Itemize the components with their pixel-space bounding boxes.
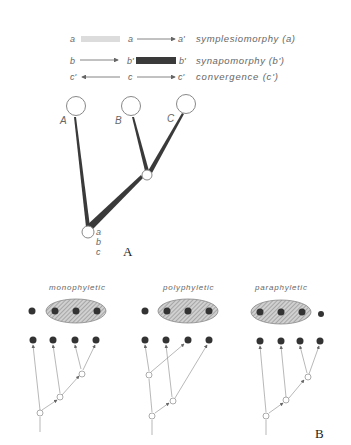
ancestor-node bbox=[79, 371, 85, 377]
tip-dot bbox=[163, 337, 170, 344]
legend-row3-right: c' bbox=[178, 72, 185, 82]
taxon-A-label: A bbox=[59, 115, 67, 126]
group-title-polyphyletic: polyphyletic bbox=[162, 283, 214, 292]
tip-dot bbox=[257, 338, 264, 345]
taxon-dot bbox=[299, 309, 306, 316]
ancestor-node bbox=[170, 398, 176, 404]
ancestor-node bbox=[146, 372, 152, 378]
legend-row3-left: c' bbox=[70, 72, 77, 82]
taxon-dot bbox=[206, 308, 213, 315]
branch-node-to-B bbox=[132, 117, 149, 171]
tip-dot bbox=[30, 337, 37, 344]
taxon-dot bbox=[29, 308, 36, 315]
branch-root-to-A bbox=[74, 117, 90, 227]
tip-dot bbox=[185, 337, 192, 344]
ancestor-node bbox=[37, 410, 43, 416]
panel-b: monophyletic pol bbox=[29, 283, 325, 441]
legend-row1-right: a' bbox=[178, 34, 185, 44]
legend-row2-right: b' bbox=[179, 56, 186, 66]
term-symplesiomorphy: symplesiomorphy (a) bbox=[196, 33, 296, 44]
panel-label-A: A bbox=[123, 244, 133, 259]
legend-row1-left: a bbox=[70, 34, 75, 44]
group-paraphyletic: paraphyletic bbox=[251, 283, 324, 435]
cladistics-diagram: a a a' symplesiomorphy (a) b b' b' synap… bbox=[0, 0, 351, 445]
root-char-c: c bbox=[96, 247, 101, 257]
term-synapomorphy: synapomorphy (b') bbox=[196, 55, 285, 66]
ancestor-node bbox=[305, 374, 311, 380]
branch-root-to-node bbox=[86, 175, 143, 230]
taxon-B-node bbox=[122, 97, 141, 116]
tree-panel-a: A B C a b c A bbox=[59, 95, 196, 260]
root-node bbox=[82, 226, 94, 238]
legend: a a a' symplesiomorphy (a) b b' b' synap… bbox=[70, 33, 296, 82]
taxon-dot bbox=[164, 308, 171, 315]
taxon-dot bbox=[73, 308, 80, 315]
ancestor-node bbox=[149, 413, 155, 419]
taxon-C-node bbox=[177, 95, 196, 114]
taxon-dot bbox=[278, 309, 285, 316]
group-monophyletic: monophyletic bbox=[29, 283, 107, 432]
taxon-B-label: B bbox=[115, 115, 122, 126]
legend-row3-mid: c bbox=[128, 72, 133, 82]
taxon-dot bbox=[185, 308, 192, 315]
taxon-A-node bbox=[67, 97, 86, 116]
taxon-dot bbox=[94, 308, 101, 315]
term-convergence: convergence (c') bbox=[196, 71, 279, 82]
ancestor-node bbox=[283, 397, 289, 403]
taxon-dot bbox=[52, 308, 59, 315]
internal-node bbox=[142, 170, 152, 180]
legend-row2-mid: b' bbox=[127, 56, 134, 66]
ancestor-node bbox=[57, 394, 63, 400]
panel-label-B: B bbox=[315, 426, 324, 441]
tip-dot bbox=[297, 338, 304, 345]
tip-dot bbox=[206, 337, 213, 344]
tip-dot bbox=[72, 337, 79, 344]
tip-dot bbox=[142, 337, 149, 344]
synapomorphy-bar bbox=[136, 57, 176, 64]
root-char-a: a bbox=[96, 227, 101, 237]
branch-node-to-C bbox=[148, 113, 184, 173]
group-polyphyletic: polyphyletic bbox=[142, 283, 219, 435]
legend-row1-mid: a bbox=[128, 34, 133, 44]
taxon-dot bbox=[257, 309, 264, 316]
group-title-monophyletic: monophyletic bbox=[49, 283, 106, 292]
taxon-dot bbox=[318, 311, 324, 317]
legend-row2-left: b bbox=[70, 56, 75, 66]
root-char-b: b bbox=[96, 237, 101, 247]
taxon-C-label: C bbox=[167, 113, 175, 124]
ancestor-node bbox=[263, 413, 269, 419]
taxon-dot bbox=[142, 308, 149, 315]
group-title-paraphyletic: paraphyletic bbox=[254, 283, 308, 292]
tip-dot bbox=[93, 337, 100, 344]
symplesiomorphy-bar bbox=[81, 36, 120, 42]
tip-dot bbox=[50, 337, 57, 344]
tip-dot bbox=[278, 338, 285, 345]
tip-dot bbox=[317, 338, 324, 345]
